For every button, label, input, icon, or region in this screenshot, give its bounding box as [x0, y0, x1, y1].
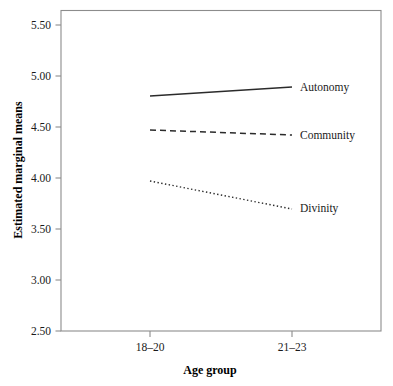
x-axis-title: Age group — [183, 363, 237, 377]
y-axis-ticks — [56, 25, 62, 331]
y-tick-label-5-00: 5.00 — [31, 70, 51, 82]
series-label-community: Community — [300, 129, 355, 142]
line-chart: 5.50 5.00 4.50 4.00 3.50 3.00 2.50 18–20… — [0, 0, 393, 386]
y-tick-label-4-00: 4.00 — [31, 172, 51, 184]
series-line-divinity — [150, 181, 292, 209]
y-tick-label-2-50: 2.50 — [31, 325, 51, 337]
series-line-autonomy — [150, 87, 292, 96]
series-label-divinity: Divinity — [300, 202, 339, 215]
series-label-autonomy: Autonomy — [300, 81, 349, 94]
y-tick-label-4-50: 4.50 — [31, 121, 51, 133]
y-axis-tick-labels: 5.50 5.00 4.50 4.00 3.50 3.00 2.50 — [31, 19, 51, 337]
x-tick-label-18-20: 18–20 — [136, 341, 165, 353]
y-tick-label-3-00: 3.00 — [31, 274, 51, 286]
plot-frame — [61, 11, 381, 332]
y-axis-title: Estimated marginal means — [11, 101, 25, 239]
plot-canvas: 5.50 5.00 4.50 4.00 3.50 3.00 2.50 18–20… — [0, 0, 393, 386]
x-axis-tick-labels: 18–20 21–23 — [136, 341, 307, 353]
x-tick-label-21-23: 21–23 — [278, 341, 307, 353]
y-tick-label-3-50: 3.50 — [31, 223, 51, 235]
x-axis-ticks — [150, 331, 292, 337]
series-line-community — [150, 130, 292, 135]
y-tick-label-5-50: 5.50 — [31, 19, 51, 31]
